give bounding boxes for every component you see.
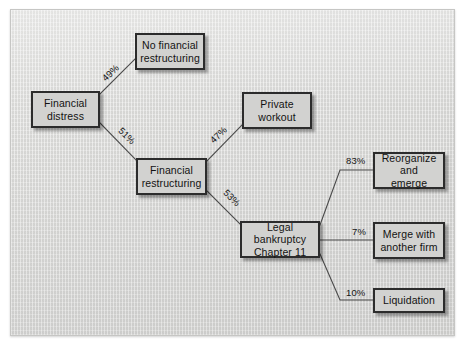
- figure-root: Financial distress No financial restruct…: [0, 0, 465, 348]
- node-legal-bankruptcy[interactable]: Legal bankruptcy Chapter 11: [240, 221, 320, 258]
- edge-label-7-percent: 7%: [352, 227, 366, 237]
- node-financial-restructuring[interactable]: Financial restructuring: [136, 158, 207, 195]
- node-private-workout[interactable]: Private workout: [242, 92, 312, 129]
- node-reorganize-and-emerge[interactable]: Reorganize and emerge: [373, 152, 445, 189]
- edge-label-83-percent: 83%: [346, 156, 365, 166]
- node-no-financial-restructuring[interactable]: No financial restructuring: [135, 33, 205, 70]
- edge-label-10-percent: 10%: [346, 288, 365, 298]
- node-liquidation[interactable]: Liquidation: [373, 288, 445, 313]
- node-financial-distress[interactable]: Financial distress: [31, 91, 100, 128]
- node-merge-with-another-firm[interactable]: Merge with another firm: [373, 222, 445, 259]
- edge-bankruptcy-to-reorganize: [320, 170, 373, 225]
